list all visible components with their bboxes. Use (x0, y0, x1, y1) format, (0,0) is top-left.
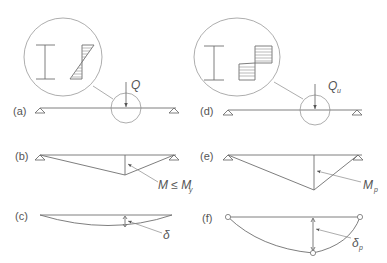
load-label-d: Q (328, 79, 337, 93)
moment-label-e: M (363, 178, 373, 192)
panel-label-e: (e) (200, 150, 213, 162)
panel-label-b: (b) (15, 150, 28, 162)
inset-elastic (24, 18, 102, 96)
moment-leader-b (128, 164, 158, 182)
i-section-icon (204, 46, 224, 80)
support-left-e (223, 155, 233, 160)
deflection-leader-f (316, 229, 351, 238)
panel-d: (d) Q u (194, 18, 362, 125)
leader-line-d (274, 82, 303, 99)
support-right-d (352, 110, 362, 115)
panel-c: (c) δ (15, 210, 172, 242)
deflected-shape-c (40, 215, 172, 226)
beam-collapse-diagram: (a) Q (0, 0, 387, 263)
hinge-right-f (357, 214, 362, 219)
panel-e: (e) M p (200, 150, 378, 194)
support-right-a (169, 108, 179, 113)
load-label-a: Q (131, 78, 140, 92)
moment-sub-e: p (373, 186, 378, 194)
moment-label-b: M ≤ M (158, 178, 191, 192)
panel-label-a: (a) (13, 105, 26, 117)
support-left-d (223, 110, 233, 115)
linear-stress-diagram (70, 45, 94, 79)
support-left-a (35, 108, 45, 113)
inset-plastic (194, 18, 280, 96)
rectangular-stress-diagram (239, 46, 272, 80)
deflection-label-c: δ (163, 228, 170, 242)
deflection-leader-c (128, 221, 162, 233)
panel-f: (f) δ p (202, 212, 363, 256)
panel-label-c: (c) (15, 210, 28, 222)
inset-circle-d (194, 18, 280, 96)
panel-b: (b) M ≤ M y (15, 150, 193, 194)
moment-leader-e (317, 171, 361, 182)
moment-diagram-e (228, 155, 358, 190)
load-sub-d: u (337, 87, 341, 94)
deflection-sub-f: p (358, 244, 363, 252)
i-section-icon (36, 45, 55, 79)
panel-label-f: (f) (202, 212, 212, 224)
hinge-mid-f (310, 250, 315, 255)
hinge-left-f (225, 214, 230, 219)
panel-label-d: (d) (200, 105, 213, 117)
moment-sub-b: y (188, 186, 193, 194)
moment-diagram-b (40, 155, 174, 175)
inset-circle-a (24, 18, 102, 96)
leader-line-a (93, 86, 113, 99)
deflection-label-f: δ (352, 236, 359, 250)
support-right-b (169, 155, 179, 160)
mechanism-left-f (228, 217, 313, 253)
panel-a: (a) Q (13, 18, 179, 123)
